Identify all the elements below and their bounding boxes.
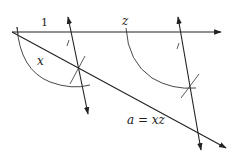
diagonal-line [12,32,226,148]
parallel-line-2 [178,17,201,150]
product-construction-diagram: 1 z x a = xz [0,0,235,153]
label-x: x [37,54,44,68]
construction-tick [177,43,179,49]
construction-tick [181,74,199,98]
arc-1 [17,27,90,87]
label-result: a = xz [127,113,166,127]
label-unit: 1 [41,16,48,29]
construction-tick [67,40,69,46]
label-z: z [121,14,129,28]
